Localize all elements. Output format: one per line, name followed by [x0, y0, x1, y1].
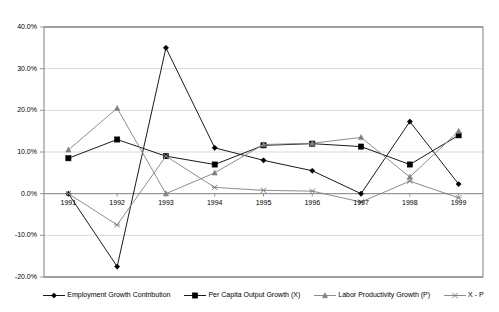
legend-item: X - P — [444, 291, 484, 300]
triangle-marker-icon — [456, 128, 461, 133]
square-marker-icon — [66, 156, 71, 161]
square-marker-icon — [193, 292, 198, 297]
legend-item-label: Per Capita Output Growth (X) — [208, 291, 300, 299]
square-marker-icon — [184, 291, 206, 300]
legend-item: Labor Productivity Growth (P) — [314, 291, 430, 300]
triangle-marker-icon — [314, 291, 336, 300]
diamond-glyph — [310, 168, 315, 173]
cross-marker-icon — [261, 188, 267, 193]
cross-marker-icon — [309, 189, 315, 194]
diamond-marker-icon — [115, 264, 120, 269]
triangle-glyph — [358, 135, 363, 140]
cross-marker-icon — [212, 185, 218, 190]
triangle-glyph — [115, 105, 120, 110]
diamond-glyph — [115, 264, 120, 269]
diamond-marker-icon — [310, 168, 315, 173]
series-line — [68, 48, 458, 267]
square-marker-icon — [212, 162, 217, 167]
legend-item-label: Employment Growth Contribution — [67, 291, 170, 299]
legend-item-label: Labor Productivity Growth (P) — [338, 291, 430, 299]
cross-marker-icon — [114, 222, 120, 227]
chart-legend: Employment Growth ContributionPer Capita… — [44, 288, 483, 302]
y-axis-tick-label: 0.0% — [0, 190, 37, 198]
triangle-marker-icon — [115, 105, 120, 110]
square-glyph — [407, 162, 412, 167]
triangle-marker-icon — [212, 170, 217, 175]
legend-item: Employment Growth Contribution — [43, 291, 170, 300]
diamond-marker-icon — [212, 145, 217, 150]
triangle-marker-icon — [358, 135, 363, 140]
diamond-marker-icon — [358, 191, 363, 196]
square-glyph — [66, 156, 71, 161]
y-axis-tick-label: 40.0% — [0, 23, 37, 31]
diamond-glyph — [358, 191, 363, 196]
square-glyph — [212, 162, 217, 167]
line-chart: 40.0%30.0%20.0%10.0%0.0%-10.0%-20.0% 199… — [0, 0, 499, 312]
chart-plot-area — [0, 0, 499, 312]
series-line — [68, 108, 458, 193]
square-glyph — [115, 137, 120, 142]
x-axis-tick-label: 1996 — [292, 199, 332, 207]
x-axis-tick-label: 1995 — [244, 199, 284, 207]
triangle-glyph — [212, 170, 217, 175]
x-axis-tick-label: 1997 — [341, 199, 381, 207]
series-3 — [65, 154, 461, 228]
diamond-glyph — [163, 45, 168, 50]
x-axis-tick-label: 1999 — [439, 199, 479, 207]
square-marker-icon — [358, 144, 363, 149]
square-glyph — [193, 292, 198, 297]
diamond-glyph — [261, 158, 266, 163]
diamond-marker-icon — [261, 158, 266, 163]
x-axis-tick-label: 1992 — [97, 199, 137, 207]
y-axis-tick-label: 30.0% — [0, 65, 37, 73]
square-marker-icon — [115, 137, 120, 142]
series-2 — [66, 105, 461, 195]
diamond-glyph — [212, 145, 217, 150]
square-glyph — [358, 144, 363, 149]
y-axis-tick-label: 10.0% — [0, 148, 37, 156]
diamond-marker-icon — [163, 45, 168, 50]
diamond-marker-icon — [52, 292, 57, 297]
cross-marker-icon — [444, 291, 466, 300]
legend-item-label: X - P — [468, 291, 484, 299]
triangle-glyph — [456, 128, 461, 133]
square-marker-icon — [407, 162, 412, 167]
legend-item: Per Capita Output Growth (X) — [184, 291, 300, 300]
x-axis-tick-label: 1994 — [195, 199, 235, 207]
y-axis-tick-label: -10.0% — [0, 231, 37, 239]
x-axis-tick-label: 1993 — [146, 199, 186, 207]
cross-marker-icon — [452, 292, 458, 297]
y-axis-tick-label: -20.0% — [0, 273, 37, 281]
x-axis-tick-label: 1998 — [390, 199, 430, 207]
diamond-glyph — [52, 292, 57, 297]
diamond-marker-icon — [43, 291, 65, 300]
y-axis-tick-label: 20.0% — [0, 106, 37, 114]
x-axis-tick-label: 1991 — [48, 199, 88, 207]
